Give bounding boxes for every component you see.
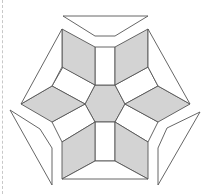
bottom-left-detached-trapezoid	[10, 110, 52, 185]
top-rectangle	[95, 47, 115, 85]
diagram-frame	[0, 0, 212, 194]
top-detached-trapezoid	[63, 16, 148, 36]
bottom-right-detached-trapezoid	[158, 112, 200, 185]
bottom-rectangle	[95, 122, 115, 161]
hexagon-tiling-figure	[0, 0, 212, 194]
tiling-pieces	[10, 16, 200, 185]
